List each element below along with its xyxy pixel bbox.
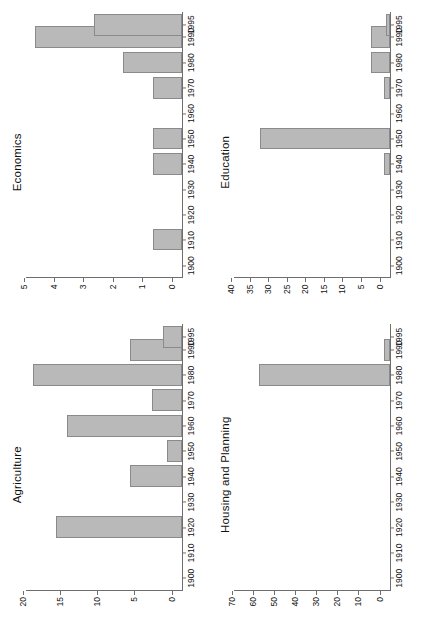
y-axis-tick: 20 bbox=[333, 591, 343, 606]
y-axis-tick-mark bbox=[24, 279, 25, 283]
x-axis-tick: 1900 bbox=[183, 256, 196, 275]
y-axis-tick-mark bbox=[361, 279, 362, 283]
y-axis-tick-label: 10 bbox=[93, 595, 102, 606]
y-axis-tick-mark bbox=[142, 279, 143, 283]
x-axis-tick: 1930 bbox=[391, 493, 404, 512]
y-axis-education: 0510152025303540 bbox=[234, 279, 390, 313]
x-axis-housing-and-planning: 1900191019201930194019501960197019801990… bbox=[390, 325, 420, 626]
x-axis-tick-label: 1950 bbox=[395, 442, 404, 461]
x-axis-tick-label: 1910 bbox=[187, 543, 196, 562]
x-axis-tick-label: 1910 bbox=[187, 231, 196, 250]
x-axis-tick-label: 1960 bbox=[395, 417, 404, 436]
x-axis-agriculture: 1900191019201930194019501960197019801990… bbox=[182, 325, 212, 626]
y-axis-tick-label: 20 bbox=[301, 283, 310, 294]
x-axis-tick: 1940 bbox=[391, 467, 404, 486]
x-axis-tick: 1995 bbox=[391, 15, 404, 34]
chart-panel-economics: Economics 012345 19001910192019301940195… bbox=[6, 4, 214, 317]
y-axis-tick: 60 bbox=[249, 591, 259, 606]
x-axis-tick: 1900 bbox=[183, 569, 196, 588]
y-axis-tick-label: 4 bbox=[50, 283, 59, 290]
x-axis-tick-label: 1980 bbox=[187, 53, 196, 72]
y-axis-tick-label: 15 bbox=[56, 595, 65, 606]
y-axis-tick-label: 1 bbox=[138, 283, 147, 290]
y-axis-tick: 3 bbox=[79, 279, 89, 290]
x-axis-tick-label: 1910 bbox=[395, 231, 404, 250]
x-axis-tick-label: 1995 bbox=[395, 328, 404, 347]
x-axis-tick-label: 1980 bbox=[187, 366, 196, 385]
y-axis-tick-label: 0 bbox=[168, 283, 177, 290]
y-axis-tick-label: 25 bbox=[283, 283, 292, 294]
chart-panel-housing-and-planning: Housing and Planning 010203040506070 190… bbox=[214, 317, 422, 630]
y-axis-tick-label: 15 bbox=[320, 283, 329, 294]
y-axis-agriculture: 05101520 bbox=[26, 591, 182, 625]
x-axis-tick-label: 1900 bbox=[187, 569, 196, 588]
y-axis-tick-mark bbox=[23, 591, 24, 595]
x-axis-tick-label: 1920 bbox=[187, 206, 196, 225]
x-axis-tick: 1970 bbox=[391, 79, 404, 98]
figure-canvas: Agriculture 05101520 1900191019201930194… bbox=[0, 0, 426, 633]
bar bbox=[153, 153, 182, 175]
y-axis-tick: 5 bbox=[356, 279, 366, 290]
y-axis-tick-label: 40 bbox=[227, 283, 236, 294]
x-axis-tick-label: 1970 bbox=[187, 391, 196, 410]
x-axis-tick: 1960 bbox=[183, 104, 196, 123]
y-axis-tick: 70 bbox=[227, 591, 237, 606]
y-axis-tick: 5 bbox=[20, 279, 30, 290]
x-axis-tick: 1980 bbox=[391, 366, 404, 385]
x-axis-tick: 1950 bbox=[183, 442, 196, 461]
y-axis-housing-and-planning: 010203040506070 bbox=[234, 591, 390, 625]
x-axis-track-agriculture: 1900191019201930194019501960197019801990… bbox=[182, 325, 212, 592]
x-axis-tick: 1910 bbox=[183, 231, 196, 250]
bar bbox=[94, 14, 182, 36]
x-axis-tick: 1995 bbox=[391, 328, 404, 347]
x-axis-tick-label: 1995 bbox=[395, 15, 404, 34]
y-axis-tick: 25 bbox=[282, 279, 292, 294]
bar bbox=[153, 128, 182, 150]
y-axis-tick-mark bbox=[253, 591, 254, 595]
y-axis-tick: 30 bbox=[264, 279, 274, 294]
y-axis-tick: 10 bbox=[93, 591, 103, 606]
x-axis-spacer bbox=[182, 591, 212, 625]
x-axis-track-housing-and-planning: 1900191019201930194019501960197019801990… bbox=[390, 325, 420, 592]
x-axis-tick-label: 1970 bbox=[187, 79, 196, 98]
x-axis-tick: 1970 bbox=[391, 391, 404, 410]
x-axis-tick-label: 1930 bbox=[187, 493, 196, 512]
x-axis-tick: 1950 bbox=[183, 129, 196, 148]
x-axis-tick: 1920 bbox=[183, 518, 196, 537]
x-axis-tick: 1910 bbox=[391, 543, 404, 562]
y-axis-tick-mark bbox=[380, 279, 381, 283]
x-axis-tick-label: 1930 bbox=[395, 493, 404, 512]
x-axis-tick: 1970 bbox=[183, 391, 196, 410]
x-axis-tick-label: 1920 bbox=[395, 518, 404, 537]
y-axis-tick-mark bbox=[97, 591, 98, 595]
y-axis-tick: 5 bbox=[130, 591, 140, 602]
x-axis-tick: 1910 bbox=[391, 231, 404, 250]
bar bbox=[33, 364, 182, 386]
y-axis-tick-label: 35 bbox=[246, 283, 255, 294]
x-axis-tick-label: 1900 bbox=[187, 256, 196, 275]
x-axis-tick: 1995 bbox=[183, 15, 196, 34]
bars-economics bbox=[26, 12, 182, 279]
x-axis-tick: 1930 bbox=[183, 493, 196, 512]
y-axis-tick-mark bbox=[172, 279, 173, 283]
y-axis-tick: 15 bbox=[319, 279, 329, 294]
y-axis-tick-label: 70 bbox=[228, 595, 237, 606]
plot-area-education: 0510152025303540 bbox=[234, 12, 390, 313]
y-axis-tick: 4 bbox=[49, 279, 59, 290]
x-axis-tick-label: 1970 bbox=[395, 79, 404, 98]
x-axis-tick-label: 1970 bbox=[395, 391, 404, 410]
y-axis-tick: 10 bbox=[354, 591, 364, 606]
y-axis-tick-label: 5 bbox=[20, 283, 29, 290]
y-axis-tick: 10 bbox=[338, 279, 348, 294]
bar bbox=[123, 52, 182, 74]
y-axis-tick-mark bbox=[83, 279, 84, 283]
y-axis-tick-label: 5 bbox=[130, 595, 139, 602]
x-axis-tick: 1980 bbox=[183, 366, 196, 385]
x-axis-tick: 1950 bbox=[391, 442, 404, 461]
x-axis-tick: 1940 bbox=[183, 155, 196, 174]
y-axis-tick-mark bbox=[172, 591, 173, 595]
bar bbox=[260, 128, 390, 150]
bar bbox=[371, 52, 390, 74]
x-axis-tick-label: 1940 bbox=[395, 467, 404, 486]
y-axis-tick-label: 20 bbox=[19, 595, 28, 606]
